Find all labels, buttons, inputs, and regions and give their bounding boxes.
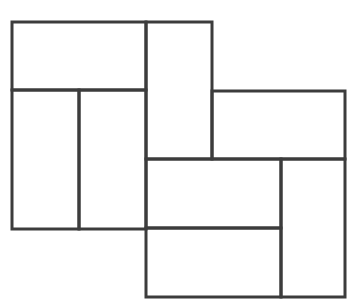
rect-lower-wide-top	[146, 159, 281, 228]
rect-left-lower-a	[12, 90, 79, 229]
rect-right-wide	[212, 91, 345, 159]
rect-left-lower-b	[79, 90, 146, 229]
rect-lower-right-tall	[281, 159, 345, 297]
rect-center-tall	[146, 22, 212, 159]
rect-lower-wide-bottom	[146, 228, 281, 297]
rectangle-tiling-diagram	[0, 0, 347, 305]
rect-top-left-wide	[12, 22, 146, 90]
